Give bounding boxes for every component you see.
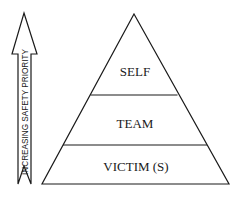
- level-team-label: TEAM: [117, 116, 154, 131]
- level-self-label: SELF: [120, 64, 150, 79]
- arrow-label: INCREASING SAFETY PRIORITY: [21, 49, 30, 175]
- level-victims-label: VICTIM (S): [103, 159, 168, 174]
- safety-priority-diagram: INCREASING SAFETY PRIORITY SELF TEAM VIC…: [0, 0, 238, 208]
- pyramid: SELF TEAM VICTIM (S): [42, 14, 229, 184]
- priority-arrow: INCREASING SAFETY PRIORITY: [12, 13, 37, 184]
